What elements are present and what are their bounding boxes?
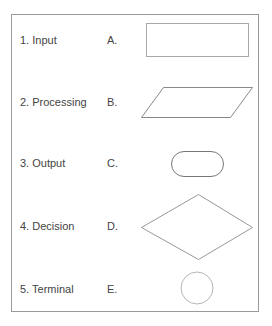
circle-shape-icon: [181, 272, 213, 304]
parallelogram-shape-icon: [142, 88, 253, 118]
diamond-shape-icon: [142, 195, 253, 260]
flowchart-shapes: [0, 0, 272, 326]
rounded-rectangle-shape-icon: [172, 152, 224, 177]
rectangle-shape-icon: [147, 24, 249, 57]
